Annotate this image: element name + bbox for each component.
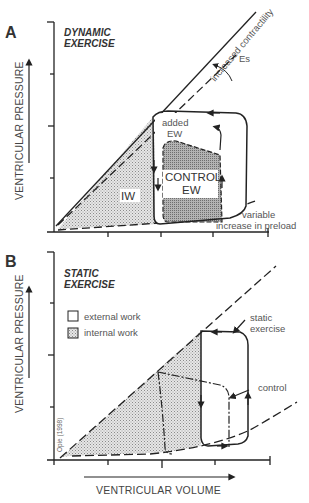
panel-a-control-ew-line1: CONTROL <box>165 171 222 183</box>
legend-swatch-external-work <box>68 311 78 321</box>
legend-label-external-work: external work <box>84 311 141 322</box>
panel-b-static-pointer-icon <box>235 320 245 331</box>
panel-a-preload-line1: variable <box>242 209 275 220</box>
panel-a-control-ew-line2: EW <box>182 184 201 196</box>
panel-b-y-axis-label: VENTRICULAR PRESSURE <box>13 274 25 413</box>
figure-credit: Opie (1998) <box>56 418 64 452</box>
legend-swatch-internal-work <box>68 328 78 338</box>
panel-b-title-line2: EXERCISE <box>64 279 115 290</box>
panel-a-internal-work-area <box>58 117 160 229</box>
panel-a-title-line1: DYNAMIC <box>64 27 111 38</box>
legend-label-internal-work: internal work <box>84 327 138 338</box>
panel-a-y-axis-label: VENTRICULAR PRESSURE <box>13 61 25 200</box>
panel-b-control-label: control <box>258 382 287 393</box>
x-axis-label: VENTRICULAR VOLUME <box>96 484 221 496</box>
panel-a-added-ew-line1: added <box>162 117 188 128</box>
panel-b-letter: B <box>5 253 17 270</box>
panel-b-static-line1: static <box>250 312 272 323</box>
panel-b: B STATIC EXERCISE external work internal… <box>5 252 297 496</box>
panel-a-es-label: Es <box>239 53 250 64</box>
panel-b-title-line1: STATIC <box>64 268 99 279</box>
pv-loop-figure: A DYNAMIC EXERCISE VENTRICULAR PRESSURE … <box>0 0 309 503</box>
panel-a-iw-label: IW <box>121 190 135 202</box>
panel-b-legend: external work internal work <box>68 311 141 338</box>
panel-a-letter: A <box>5 24 17 41</box>
panel-a: A DYNAMIC EXERCISE VENTRICULAR PRESSURE … <box>5 6 296 237</box>
panel-b-static-line2: exercise <box>250 323 285 334</box>
panel-a-preload-line2: increase in preload <box>216 220 296 231</box>
panel-a-title-line2: EXERCISE <box>64 38 115 49</box>
panel-a-added-ew-line2: EW <box>167 128 182 139</box>
